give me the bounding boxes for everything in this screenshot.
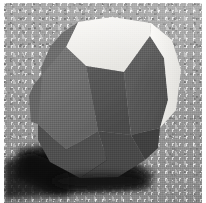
polyhedron-facets — [29, 17, 181, 178]
photo-frame — [4, 3, 202, 203]
photograph-canvas: Photograph of a gray truncated polyhedro… — [0, 0, 206, 203]
polyhedron-figure — [4, 3, 202, 203]
contact-shadow — [52, 173, 148, 189]
